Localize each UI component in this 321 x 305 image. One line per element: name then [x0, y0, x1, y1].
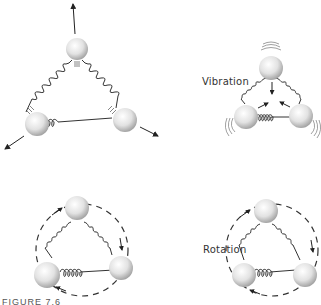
- atom-ball: [289, 104, 313, 128]
- figure-caption: FIGURE 7.6: [2, 297, 61, 305]
- rotation-label: Rotation: [203, 244, 246, 255]
- arrow-icon: [280, 102, 290, 107]
- arrow-icon: [73, 4, 75, 34]
- atom-ball: [254, 199, 278, 223]
- arrow-icon: [52, 208, 62, 215]
- arrow-icon: [258, 103, 268, 108]
- vibration-panel-compress: [225, 42, 320, 138]
- rotation-panel-left: [34, 196, 133, 296]
- arrow-icon: [140, 127, 158, 136]
- arrow-icon: [240, 210, 250, 217]
- atom-ball: [232, 263, 256, 287]
- atom-ball: [259, 56, 283, 80]
- arrow-icon: [120, 238, 122, 250]
- vibration-panel-stretch: [5, 4, 158, 149]
- atom-ball: [34, 262, 60, 288]
- atom-ball: [66, 38, 88, 60]
- molecular-motion-diagram: [0, 0, 321, 305]
- vibration-label: Vibration: [202, 76, 249, 87]
- atom-ball: [65, 196, 89, 220]
- atom-ball: [113, 108, 137, 132]
- arrow-icon: [250, 290, 260, 294]
- atom-ball: [25, 112, 49, 136]
- atom-ball: [109, 256, 133, 280]
- arrow-icon: [5, 136, 24, 149]
- atom-ball: [234, 105, 258, 129]
- arrow-icon: [311, 240, 313, 252]
- arrow-icon: [56, 287, 66, 291]
- atom-ball: [293, 263, 317, 287]
